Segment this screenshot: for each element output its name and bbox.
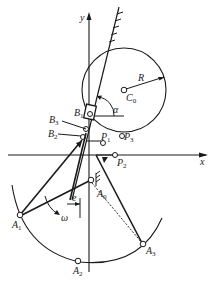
mechanism-diagram: y x R C0 α B1 B3 B2	[0, 0, 216, 282]
label-p3: P3	[123, 131, 134, 144]
label-p2: P2	[116, 157, 127, 170]
label-a3: A3	[145, 245, 156, 258]
point-a3	[140, 241, 146, 247]
point-a2	[75, 258, 81, 264]
radius-label: R	[137, 72, 144, 83]
offset-label: e	[72, 192, 77, 203]
omega-label: ω	[61, 212, 68, 223]
y-axis-label: y	[79, 12, 85, 23]
alpha-label: α	[113, 104, 119, 115]
label-b3: B3	[49, 114, 59, 127]
center-label: C0	[126, 92, 137, 105]
label-b1: B1	[74, 107, 84, 120]
x-axis-label: x	[199, 156, 205, 167]
label-a1: A1	[11, 219, 22, 232]
point-b1	[88, 112, 93, 117]
coupler-links	[20, 133, 142, 243]
ground-pivot-a0	[88, 171, 100, 186]
y-axis	[87, 12, 92, 272]
label-a2: A2	[72, 265, 83, 278]
point-a1	[17, 212, 23, 218]
label-b2: B2	[48, 128, 58, 141]
